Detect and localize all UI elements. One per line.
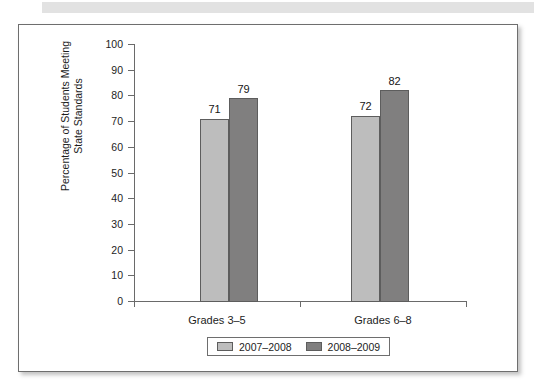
x-tick-middle [300,301,301,307]
x-tick-left [134,301,135,307]
y-tick-20 [128,250,134,251]
legend-entry-2007-2008: 2007–2008 [217,341,292,353]
y-tick-80 [128,95,134,96]
y-tick-100 [128,44,134,45]
y-tick-label-10: 10 [83,270,123,280]
y-tick-label-30: 30 [83,219,123,229]
y-tick-label-80: 80 [83,90,123,100]
y-tick-60 [128,147,134,148]
y-tick-40 [128,198,134,199]
y-tick-label-50: 50 [83,168,123,178]
y-tick-70 [128,121,134,122]
x-axis-label-grades-6-8: Grades 6–8 [313,314,453,326]
x-tick-right [466,301,467,307]
bar-value-grades-6-8-2008-2009: 82 [375,75,415,87]
bar-grades-3-5-2008-2009 [229,98,258,302]
y-tick-label-20: 20 [83,245,123,255]
y-axis-line [134,44,135,302]
y-tick-label-60: 60 [83,142,123,152]
y-tick-10 [128,275,134,276]
y-tick-label-90: 90 [83,65,123,75]
chart-legend: 2007–2008 2008–2009 [207,337,390,356]
figure-frame: Percentage of Students Meeting State Sta… [18,24,518,372]
bar-value-grades-3-5-2008-2009: 79 [224,83,264,95]
legend-entry-2008-2009: 2008–2009 [306,341,381,353]
y-tick-90 [128,70,134,71]
bar-chart-plot-area: Percentage of Students Meeting State Sta… [19,25,519,373]
legend-label-2007-2008: 2007–2008 [239,341,292,353]
y-tick-label-40: 40 [83,193,123,203]
legend-swatch-light-gray-icon [217,342,233,351]
bar-grades-6-8-2007-2008 [351,116,380,302]
legend-label-2008-2009: 2008–2009 [328,341,381,353]
bar-grades-6-8-2008-2009 [380,90,409,302]
y-axis-title: Percentage of Students Meeting State Sta… [59,36,85,196]
bar-grades-3-5-2007-2008 [200,119,229,303]
legend-swatch-dark-gray-icon [306,342,322,351]
y-tick-30 [128,224,134,225]
x-axis-label-grades-3-5: Grades 3–5 [147,314,287,326]
y-tick-50 [128,173,134,174]
y-tick-label-70: 70 [83,116,123,126]
y-axis-title-line-1: Percentage of Students Meeting [59,41,71,191]
y-tick-label-0: 0 [83,296,123,306]
page-header-band [42,2,534,13]
y-tick-label-100: 100 [83,39,123,49]
